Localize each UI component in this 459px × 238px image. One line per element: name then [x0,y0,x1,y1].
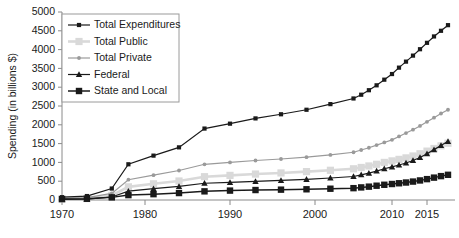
y-tick-label: 5000 [32,5,56,17]
data-point-marker [382,78,386,82]
data-point-marker [446,23,450,27]
data-point-marker [411,54,415,58]
data-point-marker [418,124,422,128]
data-point-marker [152,173,156,177]
y-tick-label: 2500 [32,99,56,111]
legend: Total ExpendituresTotal PublicTotal Priv… [62,14,180,102]
data-point-marker [403,179,409,185]
y-tick-label: 1000 [32,156,56,168]
data-point-marker [390,72,394,76]
y-tick-label: 3500 [32,62,56,74]
legend-label: Total Private [94,51,152,63]
data-point-marker [350,185,356,191]
data-point-marker [359,148,363,152]
data-point-marker [367,88,371,92]
x-tick-label: 1970 [50,208,74,220]
data-point-marker [227,187,233,193]
data-point-marker [431,174,437,180]
data-point-marker [60,195,64,199]
data-point-marker [328,102,332,106]
data-point-marker [126,178,130,182]
data-point-marker [388,157,395,164]
data-point-marker [381,182,387,188]
data-point-marker [432,116,436,120]
data-point-marker [201,188,207,194]
data-point-marker [411,128,415,132]
data-point-marker [390,138,394,142]
data-point-marker [201,173,208,180]
data-point-marker [329,153,333,157]
data-point-marker [85,194,89,198]
data-point-marker [150,191,156,197]
data-point-marker [327,167,334,174]
data-point-marker [304,108,308,112]
data-point-marker [252,187,258,193]
data-point-marker [77,23,81,27]
data-point-marker [375,83,379,87]
data-point-marker [351,96,355,100]
legend-label: Federal [94,68,130,80]
x-tick-label: 2000 [303,208,327,220]
y-tick-label: 500 [37,174,55,186]
data-point-marker [417,177,423,183]
data-point-marker [373,161,380,168]
data-point-marker [202,126,206,130]
data-point-marker [253,116,257,120]
data-point-marker [424,176,430,182]
data-point-marker [404,60,408,64]
data-point-marker [203,162,207,166]
chart-container: 0500100015002000250030003500400045005000… [0,0,459,238]
y-tick-label: 1500 [32,137,56,149]
data-point-marker [77,56,81,60]
data-point-marker [350,165,357,172]
data-point-marker [410,178,416,184]
legend-label: State and Local [94,84,167,96]
data-point-marker [439,29,443,33]
data-point-marker [254,159,258,163]
data-point-marker [177,145,181,149]
data-point-marker [397,66,401,70]
data-point-marker [404,131,408,135]
data-point-marker [418,47,422,51]
data-point-marker [373,183,379,189]
data-point-marker [389,181,395,187]
data-point-marker [382,141,386,145]
data-point-marker [151,154,155,158]
data-point-marker [367,146,371,150]
data-point-marker [126,162,130,166]
y-axis-title: Spending (in billions $) [6,53,18,159]
data-point-marker [110,186,114,190]
data-point-marker [381,159,388,166]
data-point-marker [277,169,284,176]
data-point-marker [439,112,443,116]
x-tick-label: 1990 [218,208,242,220]
x-tick-label: 2015 [415,208,439,220]
data-point-marker [303,186,309,192]
data-point-marker [352,150,356,154]
data-point-marker [396,180,402,186]
data-point-marker [432,34,436,38]
legend-label: Total Expenditures [94,18,180,30]
data-point-marker [358,184,364,190]
data-point-marker [75,38,82,45]
data-point-marker [397,135,401,139]
x-tick-label: 2010 [380,208,404,220]
data-point-marker [359,93,363,97]
y-tick-label: 4500 [32,24,56,36]
data-point-marker [365,162,372,169]
data-point-marker [327,186,333,192]
legend-label: Total Public [94,35,148,47]
y-tick-label: 0 [49,193,55,205]
data-point-marker [278,186,284,192]
data-point-marker [228,161,232,165]
y-tick-label: 3000 [32,80,56,92]
data-point-marker [305,155,309,159]
data-point-marker [76,88,82,94]
y-tick-label: 4000 [32,43,56,55]
data-point-marker [366,183,372,189]
data-point-marker [279,157,283,161]
x-tick-label: 1980 [133,208,157,220]
data-point-marker [303,168,310,175]
data-point-marker [252,170,259,177]
data-point-marker [228,122,232,126]
